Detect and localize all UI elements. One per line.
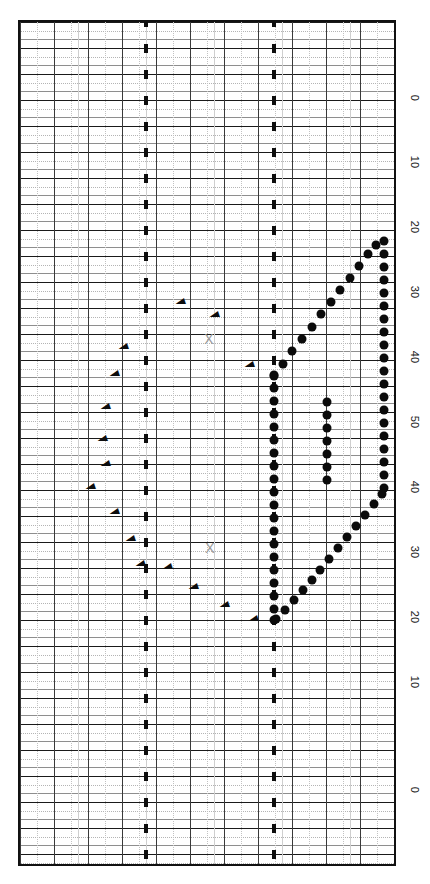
data-point [380, 263, 389, 272]
caret-marker-icon: ◄ [161, 561, 174, 574]
data-point [380, 276, 389, 285]
axis-tick [144, 538, 147, 547]
grid-line-major-horizontal [20, 750, 394, 751]
caret-marker-icon: ◄ [187, 581, 200, 594]
caret-marker-icon: ◄ [108, 506, 121, 519]
axis-tick [144, 434, 147, 443]
grid-line-minor-horizontal [20, 785, 394, 786]
grid-band-vertical [282, 22, 283, 864]
axis-tick [272, 668, 275, 677]
grid-line-minor-horizontal [20, 499, 394, 500]
axis-tick [144, 356, 147, 365]
data-point [380, 445, 389, 454]
grid-line-major-vertical [156, 22, 157, 864]
grid-line-mid-horizontal [20, 767, 394, 768]
data-point [290, 596, 299, 605]
data-point [380, 393, 389, 402]
axis-tick [144, 590, 147, 599]
data-point [380, 367, 389, 376]
x-marker-upper: X [203, 333, 216, 346]
axis-tick-label: 10 [405, 145, 421, 179]
grid-line-minor-horizontal [20, 629, 394, 630]
caret-marker-icon: ◄ [99, 458, 112, 471]
data-point [380, 328, 389, 337]
axis-tick-label: 30 [405, 275, 421, 309]
grid-line-mid-horizontal [20, 637, 394, 638]
grid-line-major-horizontal [20, 256, 394, 257]
axis-tick [144, 512, 147, 521]
data-point [270, 475, 279, 484]
axis-tick [272, 330, 275, 339]
grid-line-minor-horizontal [20, 395, 394, 396]
grid-band-vertical [78, 22, 79, 864]
caret-marker-icon: ◄ [218, 599, 231, 612]
axis-tick [144, 44, 147, 53]
grid-line-minor-horizontal [20, 265, 394, 266]
data-point [380, 432, 389, 441]
axis-tick [272, 720, 275, 729]
grid-line-major-vertical [88, 22, 89, 864]
data-point [270, 372, 279, 381]
grid-line-major-horizontal [20, 152, 394, 153]
data-point [380, 315, 389, 324]
grid-line-mid-horizontal [20, 715, 394, 716]
axis-tick [272, 226, 275, 235]
data-point [270, 514, 279, 523]
grid-line-major-horizontal [20, 776, 394, 777]
grid-line-major-horizontal [20, 672, 394, 673]
data-point [270, 553, 279, 562]
grid-line-mid-horizontal [20, 741, 394, 742]
axis-tick [272, 148, 275, 157]
axis-tick [272, 824, 275, 833]
grid-line-mid-horizontal [20, 507, 394, 508]
grid-line-mid-horizontal [20, 351, 394, 352]
axis-tick [272, 356, 275, 365]
caret-marker-icon: ◄ [208, 309, 221, 322]
axis-tick [144, 252, 147, 261]
caret-marker-icon: ◄ [84, 481, 97, 494]
grid-line-minor-horizontal [20, 473, 394, 474]
caret-marker-icon: ◄ [247, 613, 260, 626]
axis-tick [144, 694, 147, 703]
grid-line-minor-horizontal [20, 161, 394, 162]
axis-tick [272, 96, 275, 105]
data-point [270, 410, 279, 419]
data-point [308, 323, 317, 332]
axis-tick [144, 850, 147, 859]
data-point [380, 250, 389, 259]
grid-line-mid-horizontal [20, 403, 394, 404]
grid-line-major-vertical [224, 22, 225, 864]
grid-line-minor-horizontal [20, 811, 394, 812]
grid-line-major-horizontal [20, 282, 394, 283]
axis-tick [144, 616, 147, 625]
figure-caption [404, 748, 428, 880]
axis-tick [144, 772, 147, 781]
grid-line-major-horizontal [20, 724, 394, 725]
data-point [270, 488, 279, 497]
grid-line-minor-horizontal [20, 759, 394, 760]
grid-line-minor-horizontal [20, 213, 394, 214]
axis-tick [144, 330, 147, 339]
grid-line-major-horizontal [20, 646, 394, 647]
grid-line-major-horizontal [20, 828, 394, 829]
data-point [327, 298, 336, 307]
grid-line-major-horizontal [20, 490, 394, 491]
grid-line-major-horizontal [20, 620, 394, 621]
grid-line-minor-horizontal [20, 603, 394, 604]
data-point [288, 347, 297, 356]
grid-line-minor-horizontal [20, 525, 394, 526]
caret-marker-icon: ◄ [108, 368, 121, 381]
grid-line-mid-horizontal [20, 247, 394, 248]
axis-tick [144, 408, 147, 417]
grid-line-mid-horizontal [20, 221, 394, 222]
data-point [316, 566, 325, 575]
data-point [270, 449, 279, 458]
data-point [298, 335, 307, 344]
grid-line-minor-horizontal [20, 317, 394, 318]
axis-tick-label: 30 [405, 535, 421, 569]
grid-line-mid-horizontal [20, 611, 394, 612]
grid-line-minor-vertical [37, 22, 38, 864]
data-point [270, 527, 279, 536]
data-point [380, 471, 389, 480]
grid-line-major-horizontal [20, 594, 394, 595]
